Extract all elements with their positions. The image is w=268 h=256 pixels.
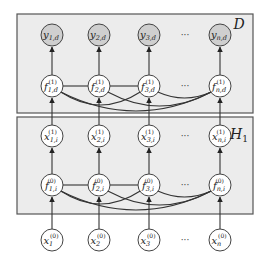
node-label: x1,i(1) [44, 128, 58, 144]
node-label: f1,d(1) [43, 78, 58, 94]
node-label: f2,d(1) [90, 78, 105, 94]
node-f0-2: f2,i(0) [88, 174, 110, 196]
node-x0-3: x3(0) [138, 229, 160, 251]
node-x0-4: xn(0) [209, 229, 231, 251]
plate-label-d: D [232, 16, 244, 32]
ellipsis-f1: ··· [181, 81, 190, 91]
ellipsis-f0: ··· [181, 180, 190, 190]
ellipsis-y_out: ··· [181, 30, 190, 40]
node-x0-2: x2(0) [88, 229, 110, 251]
ellipsis-x1: ··· [181, 131, 190, 141]
node-f1-1: f1,d(1) [41, 75, 63, 97]
node-label: fn,i(0) [212, 177, 225, 193]
node-x1-4: xn,i(1) [209, 125, 231, 147]
node-f0-4: fn,i(0) [209, 174, 231, 196]
node-label: f2,i(0) [91, 177, 104, 193]
node-y_out-3: y3,d [138, 24, 160, 46]
node-label: fn,d(1) [211, 78, 226, 94]
node-label: f1,i(0) [44, 177, 57, 193]
node-y_out-2: y2,d [88, 24, 110, 46]
ellipsis-x0: ··· [181, 235, 190, 245]
node-x1-3: x3,i(1) [138, 125, 160, 147]
graphical-model-diagram: x1(0)x2(0)x3(0)xn(0)···f1,i(0)f2,i(0)f3,… [0, 0, 268, 256]
node-x1-1: x1,i(1) [41, 125, 63, 147]
node-y_out-4: yn,d [209, 24, 231, 46]
node-f1-4: fn,d(1) [209, 75, 231, 97]
node-label: f3,d(1) [140, 78, 155, 94]
node-f1-2: f2,d(1) [88, 75, 110, 97]
node-f0-3: f3,i(0) [138, 174, 160, 196]
node-label: xn,i(1) [212, 128, 226, 144]
node-f1-3: f3,d(1) [138, 75, 160, 97]
node-x1-2: x2,i(1) [88, 125, 110, 147]
node-label: f3,i(0) [141, 177, 154, 193]
node-label: x2,i(1) [91, 128, 105, 144]
node-y_out-1: y1,d [41, 24, 63, 46]
node-f0-1: f1,i(0) [41, 174, 63, 196]
node-x0-1: x1(0) [41, 229, 63, 251]
node-label: x3,i(1) [141, 128, 155, 144]
